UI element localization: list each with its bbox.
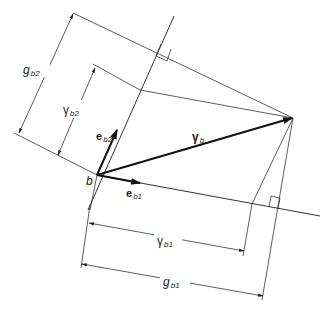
vector-gamma-b bbox=[97, 118, 292, 175]
label-e-b1: eb1 bbox=[126, 187, 142, 201]
perp-tip-to-axis-b1 bbox=[262, 118, 293, 300]
parallel-b2-to-axis-b1 bbox=[252, 118, 293, 204]
gamma-b1-extension bbox=[243, 204, 252, 256]
basis-vector-e-b1 bbox=[97, 175, 140, 183]
b2-dim-base-extension bbox=[14, 133, 97, 175]
perp-tip-to-axis-b2 bbox=[73, 13, 293, 118]
label-origin-b: b bbox=[86, 174, 93, 188]
gamma-b2-extension bbox=[93, 64, 140, 90]
parallel-b1-to-axis-b2 bbox=[140, 90, 293, 118]
label-gamma-b: γb bbox=[192, 130, 205, 145]
label-e-b2: eb2 bbox=[96, 130, 113, 144]
diagram-canvas: gb2 γb2 eb2 γb b eb1 γb1 gb1 bbox=[0, 0, 333, 311]
b1-dim-base-extension bbox=[81, 205, 90, 268]
